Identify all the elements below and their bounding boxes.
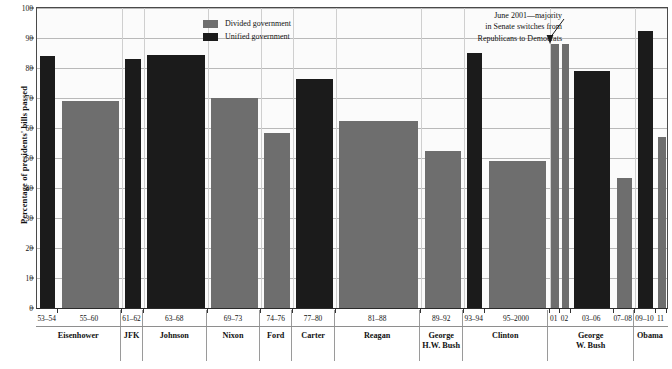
president-name-line-1: Obama [637,331,663,341]
x-term-label: 55–60 [57,310,121,326]
bar[interactable] [489,161,547,308]
bar[interactable] [125,59,140,308]
bar[interactable] [264,133,290,309]
x-term-label: 61–62 [121,310,142,326]
legend-item-unified: Unified government [203,30,291,43]
x-tick-mark [292,309,293,313]
president-name-line-2: W. Bush [576,341,605,351]
legend-label-unified: Unified government [225,30,290,43]
x-term-label: 07–08 [613,310,634,326]
annotation-senate-switch: June 2001—majority in Senate switches fr… [404,10,562,44]
x-tick-mark [420,309,421,313]
president-name-line-1: Clinton [492,331,518,341]
x-term-label: 93–94 [463,310,484,326]
bar[interactable] [211,98,258,308]
bar[interactable] [339,121,418,309]
x-axis-term-row: 53–5455–6061–6263–6869–7374–7677–8081–88… [36,310,668,327]
bar[interactable] [62,101,120,308]
x-tick-mark [570,309,571,313]
legend-swatch-divided-icon [203,20,218,28]
x-term-label: 02 [559,310,570,326]
bar[interactable] [467,53,482,308]
bar[interactable] [562,44,570,308]
president-name-line-1: George [578,331,603,341]
x-president-label: Carter [292,327,335,361]
y-tick-mark [30,188,34,189]
president-name-line-1: Eisenhower [58,331,99,341]
x-tick-mark [613,309,614,313]
y-tick-mark [30,98,34,99]
bar[interactable] [147,55,205,309]
x-president-label: Nixon [207,327,260,361]
x-president-label: Ford [260,327,292,361]
bar[interactable] [296,79,332,309]
bar[interactable] [638,31,653,309]
x-tick-mark [484,309,485,313]
x-term-label: 89–92 [420,310,463,326]
y-tick-mark [30,68,34,69]
x-president-label: Clinton [463,327,548,361]
legend-swatch-unified-icon [203,33,218,41]
x-tick-mark [260,309,261,313]
bar-chart: Percentage of presidents' bills passed 0… [0,0,672,369]
x-president-label: GeorgeW. Bush [548,327,633,361]
president-name-line-1: Nixon [223,331,244,341]
x-term-label: 11 [655,310,666,326]
bar[interactable] [658,137,666,308]
x-term-label: 63–68 [143,310,207,326]
y-tick-mark [30,248,34,249]
x-president-label: Obama [634,327,666,361]
x-term-label: 95–2000 [484,310,548,326]
bars-layer [37,8,667,308]
x-term-label: 69–73 [207,310,260,326]
y-tick-mark [30,38,34,39]
x-tick-mark [143,309,144,313]
bar[interactable] [617,178,632,309]
president-name-line-1: Johnson [160,331,189,341]
y-tick-mark [30,128,34,129]
x-tick-mark [655,309,656,313]
president-name-line-1: Reagan [364,331,390,341]
y-axis-ticks: 0102030405060708090100 [0,0,33,369]
x-tick-mark [57,309,58,313]
x-term-label: 74–76 [260,310,292,326]
x-tick-mark [207,309,208,313]
x-term-label: 09–10 [634,310,655,326]
x-president-label: JFK [121,327,142,361]
x-president-label: Reagan [335,327,420,361]
bar[interactable] [574,71,610,308]
x-term-label: 01 [548,310,559,326]
x-tick-mark [549,309,550,313]
x-tick-mark [634,309,635,313]
president-name-line-1: George [428,331,453,341]
x-tick-mark [666,309,667,313]
x-axis-president-row: EisenhowerJFKJohnsonNixonFordCarterReaga… [36,327,668,361]
annotation-line-3: Republicans to Democrats [404,33,562,44]
x-tick-mark [559,309,560,313]
president-name-line-1: Ford [267,331,284,341]
annotation-arrow-icon [540,18,566,48]
x-tick-mark [463,309,464,313]
y-tick-mark [30,218,34,219]
x-term-label: 81–88 [335,310,420,326]
x-term-label: 03–06 [570,310,613,326]
x-term-label: 77–80 [292,310,335,326]
legend-label-divided: Divided government [225,17,291,30]
y-tick-mark [30,8,34,9]
x-president-label: GeorgeH.W. Bush [420,327,463,361]
president-name-line-1: JFK [124,331,139,341]
plot-area [36,7,668,309]
x-president-label: Eisenhower [36,327,121,361]
legend: Divided government Unified government [203,17,291,43]
x-president-label: Johnson [143,327,207,361]
x-tick-mark [121,309,122,313]
y-tick-mark [30,278,34,279]
bar[interactable] [40,56,55,308]
legend-item-divided: Divided government [203,17,291,30]
bar[interactable] [425,151,461,309]
annotation-line-1: June 2001—majority [404,10,562,21]
y-tick-mark [30,308,34,309]
bar[interactable] [551,44,559,308]
president-name-line-2: H.W. Bush [422,341,460,351]
y-tick-mark [30,158,34,159]
